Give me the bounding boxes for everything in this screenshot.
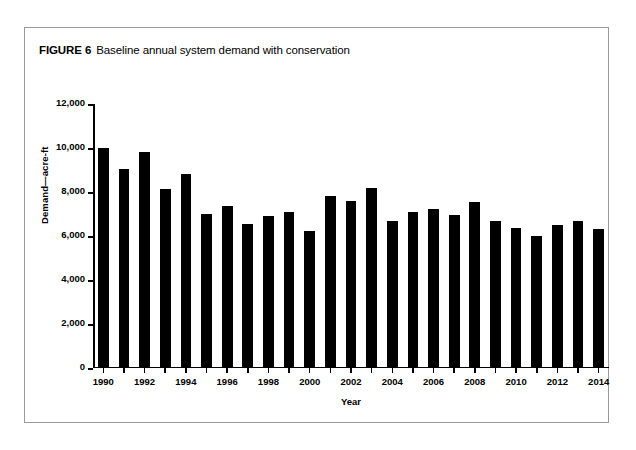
bar (222, 206, 233, 368)
bar (284, 212, 295, 368)
x-axis-title: Year (93, 396, 609, 407)
y-axis-tick-mark (88, 104, 93, 106)
bar (201, 214, 212, 368)
bar (449, 215, 460, 368)
bar (511, 228, 522, 368)
figure-caption-text: Baseline annual system demand with conse… (91, 44, 350, 56)
bar (490, 221, 501, 368)
y-axis-tick-label: 8,000 (61, 185, 85, 196)
y-axis-tick-label: 2,000 (61, 317, 85, 328)
x-axis-tick-mark (392, 368, 394, 373)
x-axis-tick-mark (515, 368, 517, 373)
bar (408, 212, 419, 368)
x-axis-tick-label: 2000 (299, 376, 320, 387)
bar (573, 221, 584, 368)
x-axis-tick-label: 2010 (506, 376, 527, 387)
bar (119, 169, 130, 368)
x-axis-tick-mark (453, 368, 455, 373)
bar (428, 209, 439, 369)
x-axis-tick-mark (598, 368, 600, 373)
bar (552, 225, 563, 368)
x-axis-tick-label: 1992 (134, 376, 155, 387)
x-axis-tick-mark (350, 368, 352, 373)
x-axis-tick-mark (433, 368, 435, 373)
x-axis-tick-label: 1994 (175, 376, 196, 387)
bar (263, 216, 274, 368)
bar (469, 202, 480, 368)
x-axis-tick-label: 2006 (423, 376, 444, 387)
y-axis-tick-mark (88, 324, 93, 326)
x-axis-tick-mark (371, 368, 373, 373)
y-axis-title: Demand—acre-ft (39, 147, 50, 224)
x-axis-tick-mark (144, 368, 146, 373)
y-axis-tick-label: 6,000 (61, 229, 85, 240)
x-axis-tick-mark (495, 368, 497, 373)
bar (98, 148, 109, 368)
x-axis-tick-label: 1990 (93, 376, 114, 387)
x-axis-tick-mark (226, 368, 228, 373)
bar (593, 229, 604, 368)
x-axis-tick-label: 2004 (382, 376, 403, 387)
x-axis-tick-mark (247, 368, 249, 373)
y-axis-tick-label: 10,000 (56, 141, 85, 152)
y-axis-tick-mark (88, 148, 93, 150)
bar (366, 188, 377, 368)
y-axis-line (93, 104, 95, 368)
x-axis-tick-label: 2012 (547, 376, 568, 387)
x-axis-tick-label: 1996 (217, 376, 238, 387)
x-axis-tick-mark (103, 368, 105, 373)
bar (160, 189, 171, 368)
x-axis-tick-mark (123, 368, 125, 373)
x-axis-tick-label: 2002 (340, 376, 361, 387)
y-axis-tick-label: 0 (80, 361, 85, 372)
y-axis-tick-label: 4,000 (61, 273, 85, 284)
x-axis-tick-mark (474, 368, 476, 373)
bar (304, 231, 315, 369)
bar (387, 221, 398, 368)
y-axis-tick-mark (88, 280, 93, 282)
y-axis-tick-label: 12,000 (56, 97, 85, 108)
x-axis-tick-mark (536, 368, 538, 373)
plot-area: 02,0004,0006,0008,00010,00012,000 199019… (93, 104, 609, 368)
bar (181, 174, 192, 368)
x-axis-tick-mark (412, 368, 414, 373)
bar (325, 196, 336, 368)
x-axis-tick-mark (268, 368, 270, 373)
bar (531, 236, 542, 368)
x-axis-tick-mark (309, 368, 311, 373)
x-axis-tick-mark (288, 368, 290, 373)
x-axis-tick-label: 1998 (258, 376, 279, 387)
x-axis-tick-mark (185, 368, 187, 373)
y-axis-tick-mark (88, 236, 93, 238)
x-axis-tick-mark (206, 368, 208, 373)
figure-frame: FIGURE 6Baseline annual system demand wi… (24, 27, 609, 423)
x-axis-tick-label: 2008 (464, 376, 485, 387)
bar (139, 152, 150, 368)
x-axis-tick-mark (164, 368, 166, 373)
figure-label: FIGURE 6 (39, 44, 91, 56)
x-axis-tick-mark (330, 368, 332, 373)
x-axis-tick-label: 2014 (588, 376, 609, 387)
y-axis-tick-mark (88, 368, 93, 370)
y-axis-tick-mark (88, 192, 93, 194)
bar (242, 224, 253, 368)
figure-caption: FIGURE 6Baseline annual system demand wi… (39, 44, 350, 56)
bar (346, 201, 357, 368)
x-axis-tick-mark (577, 368, 579, 373)
x-axis-tick-mark (557, 368, 559, 373)
